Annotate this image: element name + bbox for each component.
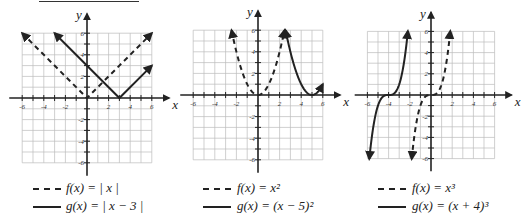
svg-text:-6: -6 — [19, 103, 25, 111]
svg-text:6: 6 — [425, 28, 429, 36]
svg-text:y: y — [245, 4, 253, 19]
svg-text:y: y — [74, 7, 82, 22]
svg-text:-2: -2 — [249, 113, 255, 121]
legend-f-3: f(x) = x³ — [412, 180, 455, 196]
svg-text:4: 4 — [128, 103, 132, 111]
svg-text:-4: -4 — [78, 138, 84, 146]
svg-text:4: 4 — [299, 100, 303, 108]
svg-text:x: x — [171, 97, 178, 112]
svg-text:4: 4 — [81, 51, 85, 59]
svg-text:-6: -6 — [78, 159, 84, 167]
svg-text:-4: -4 — [422, 134, 428, 142]
legend-solid-3 — [378, 206, 406, 208]
svg-text:-2: -2 — [62, 103, 68, 111]
legend-g-2: g(x) = (x − 5)² — [237, 198, 313, 214]
legend-g-1: g(x) = | x − 3 | — [66, 198, 143, 214]
svg-text:4: 4 — [425, 49, 429, 57]
svg-text:2: 2 — [81, 73, 85, 81]
svg-text:2: 2 — [278, 100, 282, 108]
svg-text:-2: -2 — [78, 116, 84, 124]
svg-text:2: 2 — [107, 103, 111, 111]
svg-text:6: 6 — [150, 103, 154, 111]
svg-text:-2: -2 — [422, 113, 428, 121]
svg-text:6: 6 — [493, 100, 497, 108]
svg-text:-2: -2 — [233, 100, 239, 108]
svg-text:-6: -6 — [190, 100, 196, 108]
legend-f-1: f(x) = | x | — [66, 180, 119, 196]
legend-dash-2 — [203, 188, 231, 190]
svg-text:6: 6 — [252, 27, 256, 35]
svg-text:-4: -4 — [386, 100, 392, 108]
svg-text:-6: -6 — [249, 156, 255, 164]
svg-text:-4: -4 — [212, 100, 218, 108]
legend-g-3: g(x) = (x + 4)³ — [412, 198, 488, 214]
svg-text:6: 6 — [81, 30, 85, 38]
legend-solid-2 — [203, 206, 231, 208]
svg-text:2: 2 — [450, 100, 454, 108]
svg-text:2: 2 — [425, 70, 429, 78]
legend-dash-3 — [378, 188, 406, 190]
svg-text:2: 2 — [252, 70, 256, 78]
legend-dash-1 — [33, 188, 61, 190]
legend-f-2: f(x) = x² — [237, 180, 280, 196]
svg-text:-2: -2 — [407, 100, 413, 108]
svg-text:-4: -4 — [249, 135, 255, 143]
legend-solid-1 — [33, 206, 61, 208]
svg-text:x: x — [342, 94, 349, 109]
svg-text:-4: -4 — [41, 103, 47, 111]
svg-text:y: y — [418, 6, 426, 21]
svg-text:-6: -6 — [364, 100, 370, 108]
svg-text:4: 4 — [252, 48, 256, 56]
svg-text:x: x — [514, 94, 521, 109]
svg-text:4: 4 — [472, 100, 476, 108]
svg-text:-6: -6 — [422, 155, 428, 163]
svg-text:6: 6 — [321, 100, 325, 108]
